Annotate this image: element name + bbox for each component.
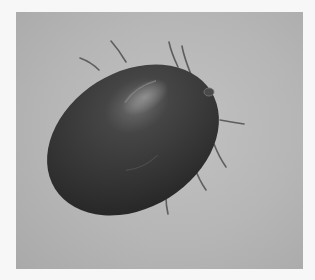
tick-photo: engorged tick xyxy=(16,12,303,269)
tick-illustration xyxy=(16,12,303,269)
tick-head xyxy=(204,88,214,96)
leg-upper-1 xyxy=(80,58,99,70)
leg-right-1 xyxy=(220,120,244,124)
leg-upper-2 xyxy=(111,41,126,62)
leg-upper-3 xyxy=(169,42,178,67)
tick-body xyxy=(19,34,247,247)
leg-lower-1 xyxy=(214,144,226,167)
